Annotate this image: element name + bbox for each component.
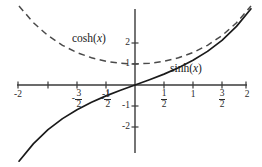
y-tick-label-pos-1: 1 — [118, 59, 130, 69]
x-tick-neg-1-over-2-denominator: 2 — [104, 99, 111, 110]
x-tick-neg-1-over-2-numerator: 1 — [104, 89, 111, 99]
sinh-curve-label: sinh(x) — [170, 63, 202, 75]
x-tick-label-neg-3-over-2: -32 — [67, 89, 87, 109]
x-tick-pos-1-over-2-denominator: 2 — [161, 99, 168, 110]
x-tick-neg-3-over-2-numerator: 3 — [75, 89, 82, 99]
x-tick-label-pos-3-over-2: 32 — [215, 89, 229, 109]
x-tick-label-pos-1: 1 — [186, 90, 200, 100]
cosh-curve-label: cosh(x) — [72, 33, 106, 45]
sinh-label-suffix: ) — [198, 62, 202, 74]
plot-canvas — [0, 0, 262, 167]
cosh-label-prefix: cosh( — [72, 32, 97, 44]
y-tick-label-pos-2: 2 — [118, 38, 130, 48]
x-tick-label-pos-2: 2 — [240, 90, 254, 100]
x-tick-pos-3-over-2-denominator: 2 — [219, 99, 226, 110]
hyperbolic-functions-figure: -2 -32 -1 -12 12 1 32 2 2 1 -1 -2 cosh(x… — [0, 0, 262, 167]
x-tick-pos-1-over-2-numerator: 1 — [161, 89, 168, 99]
sinh-label-prefix: sinh( — [170, 62, 193, 74]
x-tick-label-pos-1-over-2: 12 — [157, 89, 171, 109]
cosh-label-suffix: ) — [102, 32, 106, 44]
x-tick-label-neg-1-over-2: -12 — [96, 89, 116, 109]
y-tick-label-neg-1: -1 — [115, 101, 130, 111]
x-tick-pos-3-over-2-numerator: 3 — [219, 89, 226, 99]
x-tick-neg-3-over-2-denominator: 2 — [75, 99, 82, 110]
y-tick-label-neg-2: -2 — [115, 122, 130, 132]
x-tick-label-neg-2: -2 — [11, 90, 25, 100]
